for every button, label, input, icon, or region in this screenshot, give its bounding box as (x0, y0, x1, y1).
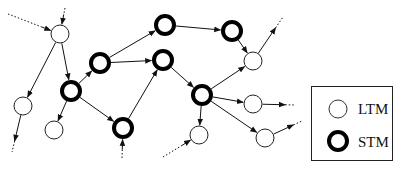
legend-box: LTM STM (311, 86, 393, 161)
stm-node-icon (318, 128, 358, 158)
stm-node-D (62, 82, 80, 100)
edge-G-K (171, 67, 193, 87)
dangling-edge-tail (8, 14, 41, 27)
edge-K-J (211, 67, 245, 89)
legend-item-ltm: LTM (312, 97, 392, 127)
ltm-node-C (45, 121, 63, 139)
ltm-node-icon (318, 97, 358, 127)
edge-A-B (28, 42, 56, 97)
stm-node-I (223, 22, 241, 40)
ltm-node-N (256, 129, 274, 147)
stm-node-G (154, 51, 172, 69)
dangling-edge-tail (64, 8, 65, 14)
stm-node-H (114, 119, 132, 137)
stm-node-K (193, 86, 211, 104)
edge-I-J (238, 40, 247, 53)
edge-F-I (176, 26, 221, 30)
ltm-node-B (14, 97, 32, 115)
legend-item-stm: STM (312, 128, 392, 158)
ltm-node-J (244, 52, 262, 70)
edge-D-C (58, 101, 67, 121)
dangling-edge-tail (12, 141, 15, 152)
dangling-edge-1 (62, 14, 64, 24)
dangling-edge-7 (274, 125, 294, 134)
edge-K-L (213, 97, 243, 102)
legend-label-ltm: LTM (358, 99, 388, 119)
dangling-edge-tail (276, 17, 283, 28)
dangling-edge-0 (41, 27, 50, 31)
dangling-edge-tail (163, 145, 182, 157)
stm-node-F (156, 16, 174, 34)
edge-E-F (109, 31, 155, 58)
edge-K-M (200, 106, 201, 125)
stm-node-E (91, 54, 109, 72)
edge-E-G (111, 61, 152, 63)
dangling-edge-2 (15, 115, 21, 141)
nodes-layer (14, 16, 274, 147)
dangling-edge-tail (293, 121, 302, 125)
ltm-node-M (190, 126, 208, 144)
dangling-edge-5 (258, 28, 275, 53)
network-diagram: LTM STM (0, 0, 403, 169)
edge-A-D (62, 43, 69, 79)
edge-H-G (129, 70, 158, 119)
ltm-node-L (244, 95, 262, 113)
dangling-edge-6 (262, 104, 285, 105)
edge-D-E (79, 71, 92, 83)
legend-label-stm: STM (358, 132, 389, 152)
dangling-edge-4 (182, 140, 191, 145)
edge-D-H (80, 97, 114, 121)
ltm-node-A (51, 25, 69, 43)
